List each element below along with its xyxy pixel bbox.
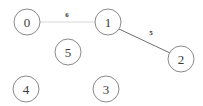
graph-node-5[interactable]: 5 (55, 39, 81, 65)
graph-svg: 012543 65 (0, 0, 203, 106)
node-label: 4 (23, 82, 30, 97)
node-label: 0 (24, 15, 31, 30)
graph-edge[interactable] (119, 29, 170, 53)
nodes-layer: 012543 (13, 9, 194, 102)
graph-node-1[interactable]: 1 (95, 9, 121, 35)
graph-node-0[interactable]: 0 (14, 9, 40, 35)
graph-node-3[interactable]: 3 (93, 76, 119, 102)
graph-node-4[interactable]: 4 (13, 76, 39, 102)
node-label: 2 (178, 52, 185, 67)
edge-weight-label: 5 (149, 29, 153, 37)
node-label: 3 (103, 82, 110, 97)
graph-node-2[interactable]: 2 (168, 46, 194, 72)
node-label: 5 (65, 45, 72, 60)
graph-diagram: 012543 65 (0, 0, 203, 106)
node-label: 1 (105, 15, 112, 30)
edge-weight-label: 6 (65, 11, 69, 19)
